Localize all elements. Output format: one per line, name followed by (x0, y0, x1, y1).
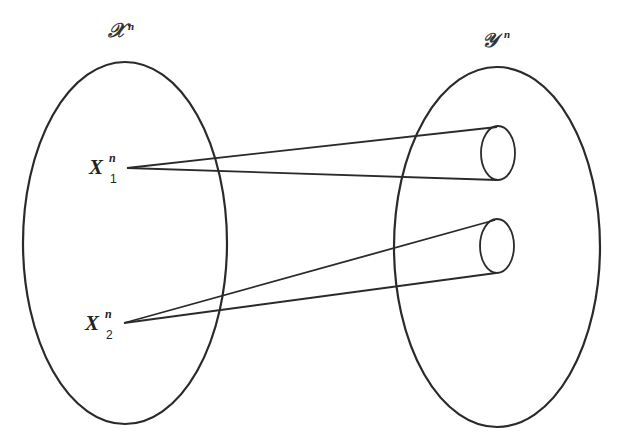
typical-set-ellipse-2 (480, 219, 514, 273)
cone-2 (124, 219, 514, 323)
right-set-symbol: 𝒴 (482, 28, 503, 52)
input-space-ellipse (23, 62, 227, 424)
typical-set-ellipse-1 (481, 126, 515, 180)
point-2-base: X (84, 311, 100, 335)
output-space-ellipse (394, 67, 600, 427)
point-label-2: X n 2 (84, 307, 113, 342)
point-label-1: X n 1 (88, 151, 117, 186)
cone-2-lower-line (124, 273, 496, 323)
point-2-superscript: n (105, 307, 112, 321)
left-set-label: 𝒳 n (107, 18, 134, 42)
right-set-label: 𝒴 n (482, 28, 510, 52)
point-2-subscript: 2 (106, 328, 113, 342)
left-set-superscript: n (128, 20, 134, 32)
channel-mapping-diagram: 𝒳 n 𝒴 n X n 1 X n 2 (0, 0, 620, 447)
right-set-superscript: n (504, 28, 510, 40)
cone-1-lower-line (127, 168, 497, 180)
point-1-superscript: n (109, 151, 116, 165)
cone-1-upper-line (127, 127, 497, 168)
point-1-base: X (88, 155, 104, 179)
cone-2-upper-line (124, 220, 495, 323)
cone-1 (127, 126, 515, 180)
point-1-subscript: 1 (110, 172, 117, 186)
